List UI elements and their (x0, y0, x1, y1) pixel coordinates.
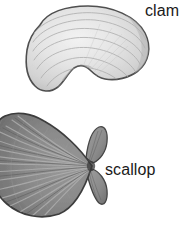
scallop-label: scallop (105, 162, 156, 178)
scallop-hinge (87, 161, 95, 171)
scallop-shell-drawing (0, 113, 107, 218)
clam-label: clam (145, 3, 179, 19)
shell-illustration-figure: clam scallop (0, 0, 191, 229)
clam-shell-drawing (22, 6, 149, 94)
illustration-canvas (0, 0, 191, 229)
